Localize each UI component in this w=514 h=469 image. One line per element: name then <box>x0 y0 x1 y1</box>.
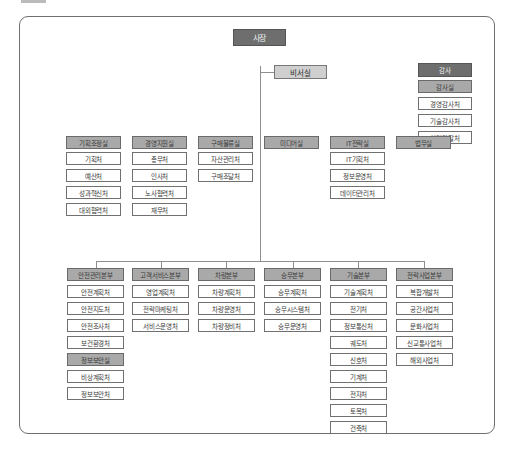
unit-box[interactable]: 비상계획처 <box>67 370 124 383</box>
unit-box[interactable]: 총무처 <box>132 152 187 165</box>
unit-box[interactable]: 자산관리처 <box>198 152 253 165</box>
unit-box[interactable]: 대외협력처 <box>66 203 121 216</box>
connector-hq-5 <box>358 261 359 268</box>
unit-box[interactable]: 승무운영처 <box>264 319 321 332</box>
staff-office-box[interactable]: 기획조정실 <box>66 136 121 149</box>
connector-main-vertical <box>260 66 261 262</box>
connector-hq-1 <box>96 261 97 268</box>
unit-box[interactable]: 전자처 <box>330 387 387 400</box>
unit-box[interactable]: 성과혁신처 <box>66 186 121 199</box>
unit-box[interactable]: 문화사업처 <box>396 319 453 332</box>
audit-unit-box[interactable]: 경영감사처 <box>418 97 472 110</box>
unit-box[interactable]: 전기처 <box>330 302 387 315</box>
unit-box[interactable]: 건축처 <box>330 421 387 434</box>
unit-box[interactable]: 공간사업처 <box>396 302 453 315</box>
unit-box[interactable]: 서비스운영처 <box>132 319 189 332</box>
unit-box[interactable]: 노사협력처 <box>132 186 187 199</box>
audit-header-box[interactable]: 감사 <box>418 63 472 77</box>
unit-box[interactable]: 예산처 <box>66 169 121 182</box>
unit-box[interactable]: 데이터관리처 <box>330 186 385 199</box>
unit-box[interactable]: 기술계획처 <box>330 285 387 298</box>
unit-box[interactable]: 안전계획처 <box>67 285 124 298</box>
staff-office-box[interactable]: 경영지원실 <box>132 136 187 149</box>
unit-box[interactable]: 복합개발처 <box>396 285 453 298</box>
hq-box[interactable]: 기술본부 <box>330 268 387 281</box>
unit-box[interactable]: 인사처 <box>132 169 187 182</box>
staff-office-box[interactable]: 미디어실 <box>264 136 319 149</box>
unit-box[interactable]: 정보운영처 <box>330 169 385 182</box>
unit-box[interactable]: 구매조달처 <box>198 169 253 182</box>
unit-box[interactable]: 신교통사업처 <box>396 336 453 349</box>
legal-office-box[interactable]: 법무실 <box>396 136 451 149</box>
audit-office-box[interactable]: 감사실 <box>418 80 472 93</box>
unit-box[interactable]: 기획처 <box>66 152 121 165</box>
connector-hq-6 <box>424 261 425 268</box>
unit-box[interactable]: 정보통신처 <box>330 319 387 332</box>
connector-secretary <box>260 72 274 73</box>
hq-box[interactable]: 전략사업본부 <box>396 268 453 281</box>
unit-box[interactable]: 차량계획처 <box>198 285 255 298</box>
connector-hq-4 <box>293 261 294 268</box>
unit-box[interactable]: 전략마케팅처 <box>132 302 189 315</box>
secretary-box[interactable]: 비서실 <box>274 65 327 79</box>
hq-box[interactable]: 승무본부 <box>264 268 321 281</box>
unit-box[interactable]: 재무처 <box>132 203 187 216</box>
unit-box[interactable]: 차량정비처 <box>198 319 255 332</box>
sub-office-box[interactable]: 정보보안실 <box>67 353 124 366</box>
connector-hq-2 <box>161 261 162 268</box>
staff-office-box[interactable]: 구매물류실 <box>198 136 253 149</box>
unit-box[interactable]: 기계처 <box>330 370 387 383</box>
unit-box[interactable]: 보건환경처 <box>67 336 124 349</box>
staff-office-box[interactable]: IT전략실 <box>330 136 385 149</box>
connector-hq-3 <box>226 261 227 268</box>
unit-box[interactable]: 차량운영처 <box>198 302 255 315</box>
unit-box[interactable]: 해외사업처 <box>396 353 453 366</box>
unit-box[interactable]: 승무계획처 <box>264 285 321 298</box>
unit-box[interactable]: 토목처 <box>330 404 387 417</box>
unit-box[interactable]: 안전조사처 <box>67 319 124 332</box>
audit-unit-box[interactable]: 기술감사처 <box>418 114 472 127</box>
hq-box[interactable]: 안전관리본부 <box>67 268 124 281</box>
connector-hq-horizontal <box>96 261 424 262</box>
unit-box[interactable]: IT기획처 <box>330 152 385 165</box>
unit-box[interactable]: 궤도처 <box>330 336 387 349</box>
unit-box[interactable]: 신호처 <box>330 353 387 366</box>
cropped-heading-fragment <box>21 0 46 3</box>
unit-box[interactable]: 정보보안처 <box>67 387 124 400</box>
ceo-box[interactable]: 사장 <box>233 29 286 46</box>
unit-box[interactable]: 안전지도처 <box>67 302 124 315</box>
hq-box[interactable]: 고객서비스본부 <box>132 268 189 281</box>
unit-box[interactable]: 영업계획처 <box>132 285 189 298</box>
unit-box[interactable]: 승무시스템처 <box>264 302 321 315</box>
hq-box[interactable]: 차량본부 <box>198 268 255 281</box>
